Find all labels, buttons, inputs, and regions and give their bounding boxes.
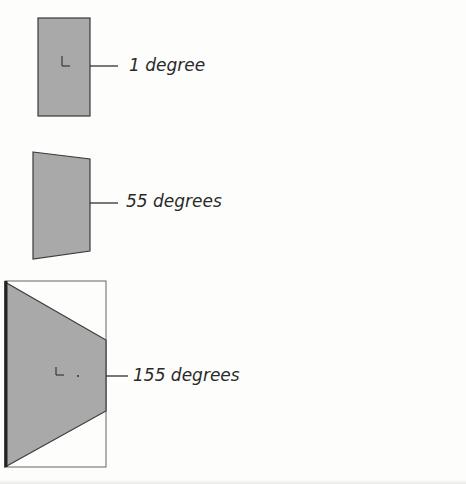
panel-55-degrees	[33, 152, 118, 259]
panel-1-degree	[38, 18, 118, 116]
trapezoid-shape	[33, 152, 90, 259]
viewing-angle-diagram	[0, 0, 466, 484]
panel-155-degrees	[5, 281, 128, 467]
label-55-degrees: 55 degrees	[126, 191, 222, 211]
label-155-degrees: 155 degrees	[133, 365, 240, 385]
dot-marker	[77, 375, 79, 377]
cropped-text-edge	[0, 480, 466, 484]
rectangle-shape	[38, 18, 90, 116]
label-1-degree: 1 degree	[129, 55, 205, 75]
